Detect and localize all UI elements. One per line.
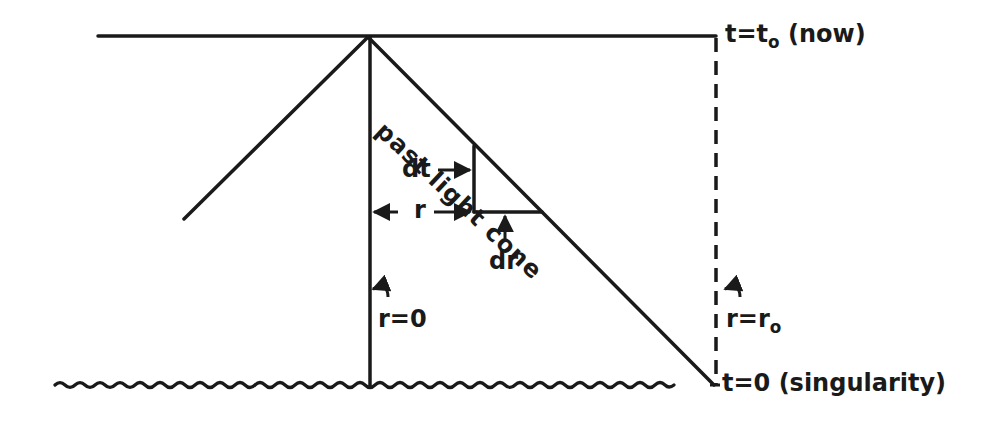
now-label: t=to (now)	[725, 22, 866, 46]
r-label: r	[414, 198, 426, 222]
now-label-sub: o	[768, 32, 780, 52]
diagram-lines	[0, 0, 1006, 428]
singularity-label: t=0 (singularity)	[722, 371, 946, 395]
now-label-prefix: t=t	[725, 20, 768, 48]
r-zero-hook-arrow	[373, 287, 388, 297]
r-o-label-sub: o	[770, 317, 782, 337]
dr-label: dr	[489, 249, 518, 273]
r-o-label: r=ro	[726, 307, 781, 331]
left-cone-edge	[184, 37, 368, 219]
now-label-suffix: (now)	[780, 20, 866, 48]
r-zero-label: r=0	[378, 307, 427, 331]
r-o-hook-arrow	[725, 287, 740, 297]
r-o-label-prefix: r=r	[726, 305, 770, 333]
singularity-wavy-line	[55, 383, 674, 388]
dt-label: dt	[402, 157, 431, 181]
spacetime-diagram: t=to (now) t=0 (singularity) past light …	[0, 0, 1006, 428]
